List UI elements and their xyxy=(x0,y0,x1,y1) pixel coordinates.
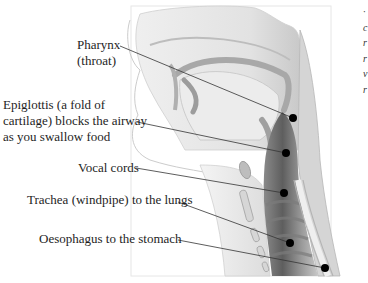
label-trachea-text: Trachea (windpipe) to the lungs xyxy=(27,192,193,207)
marker-dot-oesophagus xyxy=(321,264,329,272)
marker-dot-vocal-cords xyxy=(280,189,288,197)
label-epiglottis: Epiglottis (a fold of cartilage) blocks … xyxy=(3,97,147,145)
marker-dot-trachea xyxy=(286,239,294,247)
side-note-fragment: r xyxy=(363,51,367,67)
label-oesophagus: Oesophagus to the stomach xyxy=(39,231,182,247)
cropped-side-note: · c r r v r xyxy=(363,4,367,97)
marker-dot-epiglottis xyxy=(282,149,290,157)
label-epiglottis-line-1: Epiglottis (a fold of xyxy=(3,97,147,113)
side-note-fragment: · xyxy=(363,4,367,20)
side-note-fragment: r xyxy=(363,82,367,98)
label-vocal-cords: Vocal cords xyxy=(78,160,139,176)
label-pharynx-line-1: Pharynx xyxy=(77,37,120,53)
label-epiglottis-line-2: cartilage) blocks the airway xyxy=(3,113,147,129)
diagram-canvas: Pharynx (throat) Epiglottis (a fold of c… xyxy=(0,0,368,283)
label-epiglottis-line-3: as you swallow food xyxy=(3,129,147,145)
label-trachea: Trachea (windpipe) to the lungs xyxy=(27,192,193,208)
label-pharynx-line-2: (throat) xyxy=(77,53,120,69)
label-oesophagus-text: Oesophagus to the stomach xyxy=(39,231,182,246)
side-note-fragment: c xyxy=(363,20,367,36)
label-vocal-cords-text: Vocal cords xyxy=(78,160,139,175)
side-note-fragment: r xyxy=(363,35,367,51)
label-pharynx: Pharynx (throat) xyxy=(77,37,120,69)
marker-dot-pharynx xyxy=(289,114,297,122)
side-note-fragment: v xyxy=(363,66,367,82)
